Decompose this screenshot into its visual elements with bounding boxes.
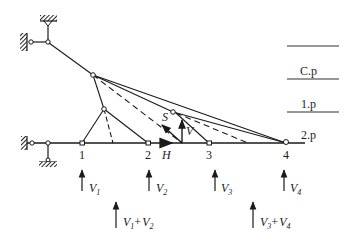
node-label-3: 3 xyxy=(206,148,212,162)
left-deck-support xyxy=(21,136,57,167)
left-wall-support-upper xyxy=(20,33,50,51)
level-label-cp: C.p xyxy=(300,64,317,78)
node-c xyxy=(171,110,176,115)
node-label-1: 1 xyxy=(79,148,85,162)
level-label-2p: 2.p xyxy=(301,128,316,142)
node-a xyxy=(91,73,96,78)
reaction-label-v3: V3 xyxy=(221,181,232,197)
reaction-arrows xyxy=(82,170,284,228)
level-legend: C.p 1.p 2.p xyxy=(287,46,339,142)
node-4 xyxy=(284,140,289,145)
reaction-label-v3-plus-v4: V3+V4 xyxy=(260,215,290,231)
force-s-arrow xyxy=(162,125,182,143)
node-1 xyxy=(80,141,85,145)
reaction-label-v1: V1 xyxy=(89,181,100,197)
node-3 xyxy=(207,141,212,145)
node-b xyxy=(102,107,107,112)
main-cable xyxy=(49,43,93,75)
force-label-v: V xyxy=(186,124,195,138)
reaction-label-v1-plus-v2: V1+V2 xyxy=(123,215,153,231)
dashed-b-deck xyxy=(104,109,113,143)
node-2 xyxy=(146,141,151,145)
node-label-2: 2 xyxy=(145,148,151,162)
top-fixed-support xyxy=(40,15,57,40)
truss-diagram: 1 2 3 4 S V H C.p 1.p 2.p V1 V2 V3 V4 V1… xyxy=(0,0,355,245)
reaction-label-v2: V2 xyxy=(156,181,167,197)
force-label-s: S xyxy=(162,110,168,124)
member-b-1 xyxy=(82,109,104,143)
level-label-1p: 1.p xyxy=(301,97,316,111)
reaction-label-v4: V4 xyxy=(290,181,301,197)
node-label-4: 4 xyxy=(283,148,289,162)
member-a-b xyxy=(93,75,104,109)
member-b-2 xyxy=(104,109,148,143)
force-label-h: H xyxy=(161,148,172,162)
